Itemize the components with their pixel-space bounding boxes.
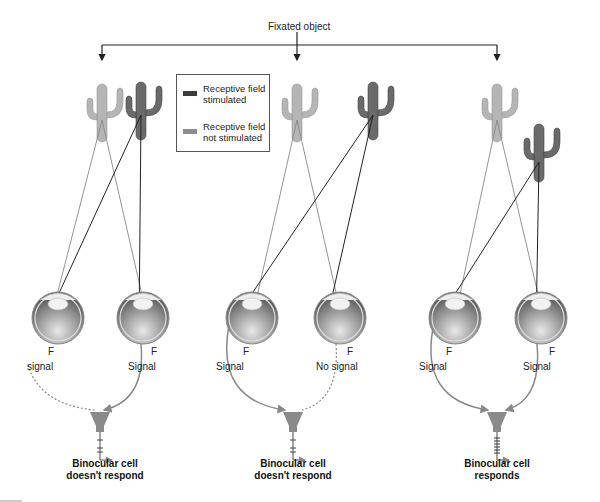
fovea-label: F [446, 346, 452, 357]
panel-2-caption: Binocular cell doesn't respond [233, 458, 353, 482]
panel-3-caption: Binocular cell responds [437, 458, 557, 482]
binocular-neuron-icon [487, 412, 509, 460]
swatch-stimulated [183, 91, 197, 96]
fovea-label: F [549, 346, 555, 357]
legend-label-line2: stimulated [203, 94, 265, 105]
right-eye-icon [117, 292, 169, 344]
left-eye-signal-label: Signal [216, 361, 244, 372]
fovea-label: F [48, 346, 54, 357]
fovea-label: F [347, 346, 353, 357]
legend-label: Receptive field not stimulated [203, 121, 265, 143]
left-eye-icon [32, 292, 84, 344]
right-eye-icon [515, 292, 567, 344]
left-eye-icon [429, 292, 481, 344]
fixation-bracket [102, 32, 497, 60]
caption-line1: Binocular cell [233, 458, 353, 470]
caption-line2: doesn't respond [233, 470, 353, 482]
right-eye-no-signal-label: No signal [316, 361, 358, 372]
left-eye-icon [226, 292, 278, 344]
fovea-label: F [151, 346, 157, 357]
legend-label-line2: not stimulated [203, 132, 265, 143]
right-eye-signal-label: Signal [523, 361, 551, 372]
caption-line1: Binocular cell [437, 458, 557, 470]
left-eye-signal-label: signal [27, 361, 53, 372]
cactus-stimulus-icon [524, 124, 560, 182]
panel-1-caption: Binocular cell doesn't respond [45, 458, 165, 482]
legend-item-stimulated: Receptive field stimulated [177, 81, 269, 111]
caption-line1: Binocular cell [45, 458, 165, 470]
swatch-not-stimulated [183, 129, 197, 134]
caption-line2: doesn't respond [45, 470, 165, 482]
right-eye-signal-label: Signal [128, 361, 156, 372]
binocular-neuron-icon [283, 412, 305, 460]
diagram-canvas [0, 0, 600, 502]
cactus-stimulus-icon [126, 82, 162, 140]
legend-label-line1: Receptive field [203, 83, 265, 94]
legend-label: Receptive field stimulated [203, 83, 265, 105]
caption-line2: responds [437, 470, 557, 482]
right-eye-icon [314, 292, 366, 344]
binocular-disparity-diagram: Fixated object Receptive field stimulate… [0, 0, 600, 502]
panel-1 [28, 82, 169, 460]
cactus-stimulus-icon [358, 82, 394, 140]
legend: Receptive field stimulated Receptive fie… [176, 74, 270, 152]
legend-label-line1: Receptive field [203, 121, 265, 132]
left-eye-signal-label: Signal [419, 361, 447, 372]
legend-item-not-stimulated: Receptive field not stimulated [177, 119, 269, 149]
binocular-neuron-icon [90, 412, 112, 460]
fixated-object-label: Fixated object [268, 21, 330, 32]
fovea-label: F [243, 346, 249, 357]
panel-3 [429, 84, 567, 460]
